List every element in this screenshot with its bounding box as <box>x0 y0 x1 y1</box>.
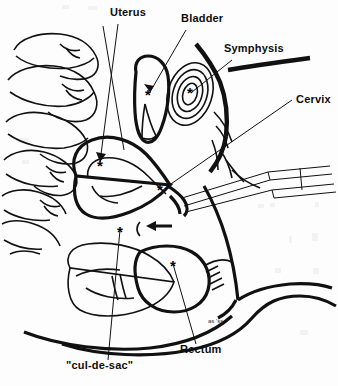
label-uterus: Uterus <box>110 6 146 18</box>
marker-symphysis: * <box>187 84 193 101</box>
marker-cervix: * <box>157 181 163 198</box>
directional-arrow <box>137 221 172 236</box>
marker-bladder: * <box>145 86 151 103</box>
label-cul-de-sac: "cul-de-sac" <box>66 359 133 371</box>
leader-rectum <box>173 264 196 344</box>
leader-uterus <box>100 24 118 162</box>
marker-cul-de-sac: * <box>117 223 123 240</box>
artist-signature: as 'ss <box>208 318 223 324</box>
marker-uterus: * <box>97 157 103 174</box>
label-cervix: Cervix <box>296 93 332 105</box>
rectum-outline <box>68 243 174 316</box>
label-symphysis: Symphysis <box>224 42 284 54</box>
anatomy-svg: * * * * * * Uterus Bladder Symphysis Cer… <box>0 0 338 386</box>
leader-cervix <box>168 100 292 186</box>
label-rectum: Rectum <box>180 343 222 355</box>
abdominal-wall <box>196 44 310 172</box>
cervix-vagina <box>168 186 187 216</box>
anatomy-figure: * * * * * * Uterus Bladder Symphysis Cer… <box>0 0 338 386</box>
marker-rectum: * <box>170 257 176 274</box>
leader-culdesac <box>108 230 120 360</box>
bladder-detail <box>142 104 156 139</box>
leader-uterus-cross <box>103 26 124 150</box>
label-bladder: Bladder <box>181 12 224 24</box>
